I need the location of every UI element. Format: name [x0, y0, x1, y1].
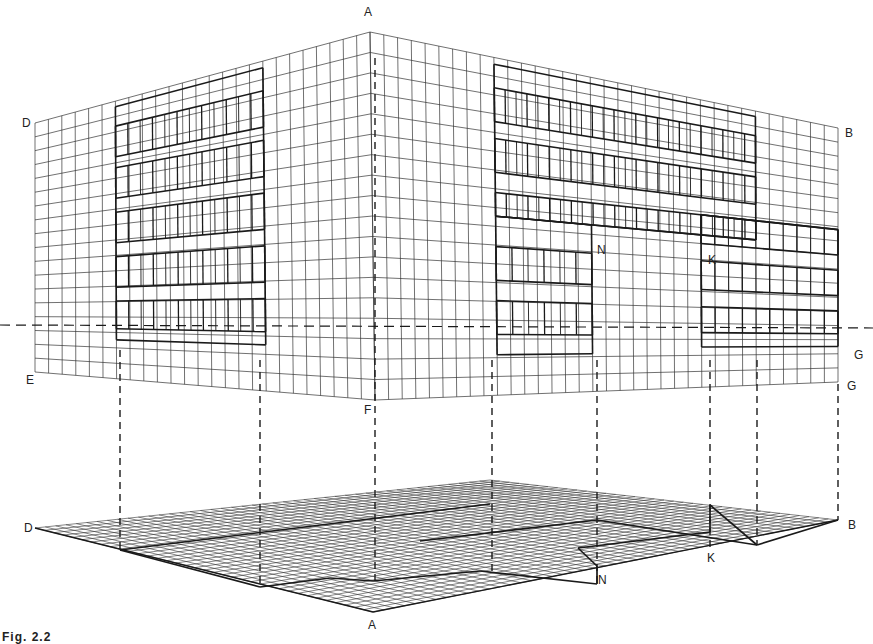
point-label-plan-n: N: [598, 574, 607, 586]
point-label-elevation-b: B: [845, 127, 853, 139]
point-label-elevation-g1: G: [854, 349, 863, 361]
point-label-plan-b: B: [848, 519, 856, 531]
point-label-plan-k: K: [707, 552, 715, 564]
point-label-elevation-d: D: [22, 117, 31, 129]
figure-caption: Fig. 2.2: [2, 630, 51, 644]
point-label-elevation-n: N: [597, 244, 606, 256]
point-label-elevation-k: K: [708, 254, 716, 266]
point-label-elevation-a: A: [364, 6, 372, 18]
point-label-plan-d: D: [24, 522, 33, 534]
left-facade-grid: [35, 32, 375, 400]
point-label-plan-a: A: [368, 619, 376, 631]
point-label-elevation-e: E: [26, 374, 34, 386]
point-label-elevation-g2: G: [847, 380, 856, 392]
point-label-elevation-f: F: [364, 404, 371, 416]
